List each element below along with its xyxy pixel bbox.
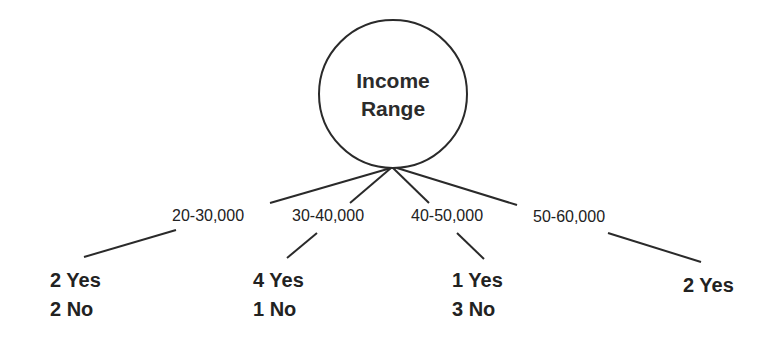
- edge-upper: [270, 168, 391, 203]
- decision-tree-diagram: Income Range 20-30,000 2 Yes 2 No 30-40,…: [0, 0, 774, 341]
- root-label-line1: Income: [356, 69, 430, 92]
- leaf-yes: 2 Yes: [683, 274, 734, 296]
- edge-lower: [457, 233, 484, 259]
- branch-label: 50-60,000: [533, 208, 605, 225]
- leaf-no: 3 No: [452, 298, 495, 320]
- branch-label: 20-30,000: [172, 207, 244, 224]
- leaf-no: 1 No: [253, 298, 296, 320]
- branch-label: 30-40,000: [292, 207, 364, 224]
- edge-lower: [287, 233, 317, 258]
- leaf-yes: 4 Yes: [253, 269, 304, 291]
- edge-upper: [397, 168, 517, 205]
- branch-label: 40-50,000: [411, 207, 483, 224]
- branch-40-50k: 40-50,000 1 Yes 3 No: [393, 168, 503, 320]
- edge-lower: [84, 230, 176, 257]
- edge-lower: [608, 233, 701, 262]
- branch-30-40k: 30-40,000 4 Yes 1 No: [253, 168, 391, 320]
- branch-50-60k: 50-60,000 2 Yes: [397, 168, 734, 296]
- branch-20-30k: 20-30,000 2 Yes 2 No: [50, 168, 391, 320]
- root-circle: [319, 20, 467, 168]
- leaf-no: 2 No: [50, 298, 93, 320]
- leaf-yes: 2 Yes: [50, 269, 101, 291]
- root-node: Income Range: [319, 20, 467, 168]
- leaf-yes: 1 Yes: [452, 269, 503, 291]
- root-label-line2: Range: [361, 97, 425, 120]
